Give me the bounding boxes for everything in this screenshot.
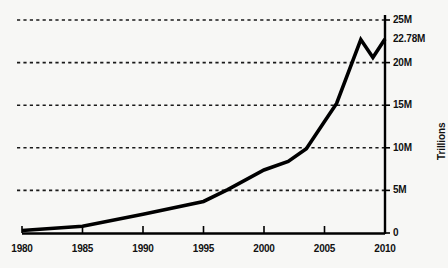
y-tick-label: 15M <box>393 100 412 110</box>
y-tick-label: 20M <box>393 58 412 68</box>
x-tick-label: 2010 <box>374 244 395 254</box>
y-value-annotation: 22.78M <box>393 34 425 44</box>
x-tick-label: 2005 <box>314 244 335 254</box>
y-tick-label: 5M <box>393 185 407 195</box>
x-tick-label: 1980 <box>11 244 32 254</box>
data-series-line <box>22 39 385 231</box>
plot-area <box>0 0 448 268</box>
x-tick-label: 1985 <box>72 244 93 254</box>
line-chart: 25M22.78M20M15M10M5M0 198019851990199520… <box>0 0 448 268</box>
y-tick-label: 10M <box>393 143 412 153</box>
x-tick-label: 2000 <box>253 244 274 254</box>
x-tick-label: 1995 <box>193 244 214 254</box>
y-tick-label: 0 <box>393 228 398 238</box>
gridlines <box>17 20 385 190</box>
y-axis-title: Trillions <box>436 123 447 160</box>
y-tick-label: 25M <box>393 15 412 25</box>
x-tick-label: 1990 <box>132 244 153 254</box>
